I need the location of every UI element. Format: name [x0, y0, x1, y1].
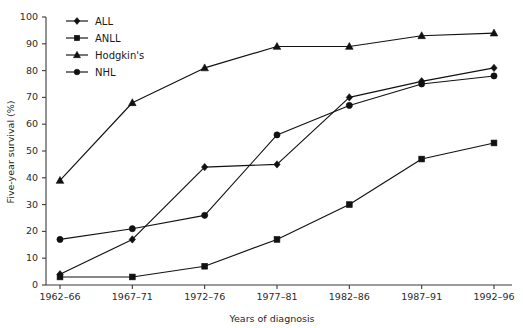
x-tick-label: 1992–96: [473, 291, 514, 302]
series-layer: [56, 29, 498, 280]
y-tick-label: 20: [26, 225, 38, 236]
legend-label: ALL: [95, 16, 113, 27]
legend-item-hodgkin-s[interactable]: Hodgkin's: [66, 50, 144, 61]
x-axis-title: Years of diagnosis: [228, 313, 314, 324]
legend-label: ANLL: [95, 33, 121, 44]
legend-label: NHL: [95, 67, 116, 78]
y-tick-label: 40: [26, 172, 38, 183]
triangle-data-marker: [129, 99, 137, 106]
circle-data-marker: [57, 236, 63, 242]
chart-canvas: 0102030405060708090100 1962–661967–71197…: [0, 0, 523, 328]
triangle-data-marker: [490, 29, 498, 36]
y-tick-label: 60: [26, 118, 38, 129]
diamond-data-marker: [74, 18, 80, 25]
legend-label: Hodgkin's: [95, 50, 144, 61]
y-tick-label: 30: [26, 199, 38, 210]
x-tick-label: 1987–91: [401, 291, 442, 302]
circle-data-marker: [274, 132, 280, 138]
legend-item-all[interactable]: ALL: [66, 16, 113, 27]
square-data-marker: [129, 274, 135, 280]
y-tick-label: 70: [26, 91, 38, 102]
x-tick-label: 1967–71: [112, 291, 153, 302]
series-nhl: [57, 73, 497, 243]
y-axis: 0102030405060708090100: [20, 11, 46, 290]
five-year-survival-chart: 0102030405060708090100 1962–661967–71197…: [0, 0, 523, 328]
square-data-marker: [57, 274, 63, 280]
y-tick-label: 50: [26, 145, 38, 156]
series-all: [57, 64, 497, 278]
circle-data-marker: [202, 212, 208, 218]
square-data-marker: [419, 156, 425, 162]
circle-data-marker: [129, 226, 135, 232]
x-tick-label: 1982–86: [329, 291, 370, 302]
circle-data-marker: [419, 81, 425, 87]
square-data-marker: [274, 237, 280, 243]
x-tick-label: 1972–76: [184, 291, 225, 302]
y-tick-label: 90: [26, 38, 38, 49]
legend-item-nhl[interactable]: NHL: [66, 67, 116, 78]
y-tick-label: 80: [26, 65, 38, 76]
x-tick-label: 1962–66: [39, 291, 80, 302]
circle-data-marker: [346, 102, 352, 108]
square-data-marker: [74, 35, 79, 40]
y-axis-title: Five-year survival (%): [5, 100, 16, 203]
series-polyline: [60, 68, 494, 274]
y-tick-label: 100: [20, 11, 38, 22]
y-tick-label: 10: [26, 252, 38, 263]
chart-legend: ALLANLLHodgkin'sNHL: [66, 16, 144, 78]
x-tick-label: 1977–81: [256, 291, 297, 302]
circle-data-marker: [74, 69, 80, 75]
square-data-marker: [202, 263, 208, 269]
circle-data-marker: [491, 73, 497, 79]
y-tick-label: 0: [32, 279, 38, 290]
square-data-marker: [346, 202, 352, 208]
x-axis: 1962–661967–711972–761977–811982–861987–…: [39, 285, 514, 302]
diamond-data-marker: [491, 64, 497, 71]
legend-item-anll[interactable]: ANLL: [66, 33, 121, 44]
square-data-marker: [491, 140, 497, 146]
